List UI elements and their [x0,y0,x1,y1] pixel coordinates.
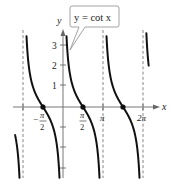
svg-text:π: π [40,110,45,120]
branch-left-partial [15,135,19,178]
zero-point-half-pi [80,104,85,109]
x-axis-label: x [161,101,167,112]
y-tick-label-2: 2 [52,61,57,71]
cot-graph: y x 3 2 1 − π 2 π 2 π 2π y = cot x [0,0,171,180]
svg-text:−: − [33,114,38,124]
y-axis-arrow-icon [61,29,66,36]
x-axis-arrow-icon [153,105,160,110]
svg-text:2: 2 [80,122,84,132]
zero-point-neg-half-pi [40,104,45,109]
svg-text:2: 2 [40,122,44,132]
x-tick-neg-half-pi: − π 2 [33,110,47,132]
y-axis [60,29,66,178]
x-tick-pi: π [100,113,105,123]
callout-text: y = cot x [74,12,112,23]
x-axis [13,104,160,110]
x-tick-half-pi: π 2 [80,110,87,132]
function-callout: y = cot x [70,6,119,50]
svg-text:π: π [80,110,85,120]
y-axis-label: y [56,15,62,26]
x-tick-2pi: 2π [137,113,147,123]
branch-right-partial [146,33,148,65]
zero-point-three-half-pi [120,104,125,109]
y-tick-label-1: 1 [52,81,57,91]
y-tick-label-3: 3 [52,41,57,51]
